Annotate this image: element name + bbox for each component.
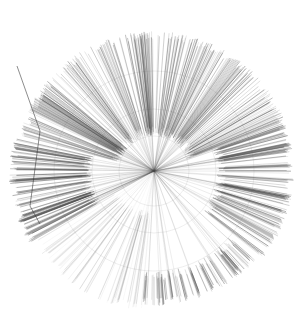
dendrogram-svg bbox=[0, 0, 294, 313]
radial-tree-figure bbox=[0, 0, 294, 313]
tree-sector bbox=[154, 125, 293, 256]
tree-sector bbox=[143, 171, 255, 306]
